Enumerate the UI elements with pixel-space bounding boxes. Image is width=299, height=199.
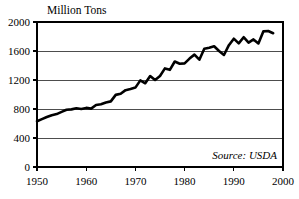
y-axis-label-1200: 1200 <box>8 74 31 86</box>
x-axis-label-1990: 1990 <box>223 175 246 187</box>
chart-title: Million Tons <box>47 4 107 16</box>
chart-canvas: 0400800120016002000 19501960197019801990… <box>0 0 299 199</box>
x-axis-label-1960: 1960 <box>75 175 98 187</box>
y-axis-label-0: 0 <box>25 161 31 173</box>
x-axis-label-1980: 1980 <box>174 175 197 187</box>
y-axis-label-1600: 1600 <box>8 45 31 57</box>
y-axis-label-400: 400 <box>14 132 31 144</box>
x-axis-label-1970: 1970 <box>124 175 147 187</box>
source-annotation: Source: USDA <box>212 149 277 161</box>
grain-production-chart: 0400800120016002000 19501960197019801990… <box>0 0 299 199</box>
chart-background <box>0 0 299 199</box>
y-axis-label-800: 800 <box>14 103 31 115</box>
y-axis-label-2000: 2000 <box>8 16 31 28</box>
x-axis-label-1950: 1950 <box>26 175 49 187</box>
x-axis-label-2000: 2000 <box>272 175 295 187</box>
